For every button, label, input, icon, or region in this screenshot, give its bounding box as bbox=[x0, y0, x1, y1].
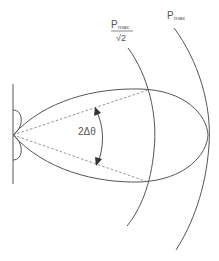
main-lobe bbox=[13, 89, 208, 182]
max-power-contour bbox=[174, 28, 209, 250]
arrowhead-up-icon bbox=[94, 107, 101, 116]
half-power-contour bbox=[127, 48, 155, 226]
radiation-pattern-diagram: 2Δθ Pmax √2 Pmax bbox=[0, 0, 219, 261]
beamwidth-label: 2Δθ bbox=[78, 126, 96, 137]
max-power-label: Pmax bbox=[167, 10, 185, 21]
beamwidth-arc bbox=[97, 112, 103, 160]
half-power-label-denominator: √2 bbox=[116, 33, 126, 43]
half-power-label-numerator: Pmax bbox=[111, 19, 129, 30]
